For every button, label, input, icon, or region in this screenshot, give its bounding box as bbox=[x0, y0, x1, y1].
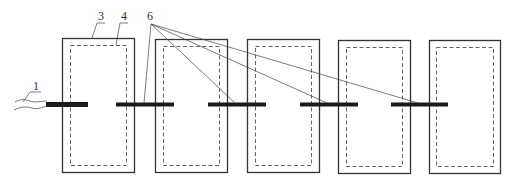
unit-4 bbox=[339, 41, 411, 174]
connecting-bars bbox=[46, 102, 448, 107]
connecting-bar-3 bbox=[208, 103, 266, 107]
leader-lines bbox=[23, 23, 418, 103]
inner-dashed-frame bbox=[437, 48, 494, 167]
label-4: 4 bbox=[121, 9, 127, 23]
outer-frame bbox=[339, 41, 411, 174]
outer-frame bbox=[430, 41, 501, 174]
unit-5 bbox=[430, 41, 501, 174]
connecting-bar-5 bbox=[391, 103, 448, 107]
label-6: 6 bbox=[147, 9, 153, 23]
leader-line-6-bar5 bbox=[151, 24, 418, 103]
input-wire bbox=[14, 100, 47, 110]
leader-line-6-bar2 bbox=[144, 24, 151, 103]
leader-line-1 bbox=[23, 92, 41, 102]
leader-line-6-bar4 bbox=[151, 24, 327, 103]
label-3: 3 bbox=[98, 9, 104, 23]
wire-strand-upper bbox=[15, 100, 47, 102]
leader-line-3 bbox=[92, 23, 105, 38]
connecting-bar-2 bbox=[116, 103, 174, 107]
connecting-bar-1 bbox=[46, 102, 88, 107]
label-1: 1 bbox=[33, 79, 39, 93]
connecting-bar-4 bbox=[300, 103, 358, 107]
leader-line-4 bbox=[116, 23, 128, 45]
schematic-diagram: 1 3 4 6 bbox=[0, 0, 508, 184]
inner-dashed-frame bbox=[347, 48, 403, 167]
wire-strand-lower bbox=[14, 106, 47, 110]
